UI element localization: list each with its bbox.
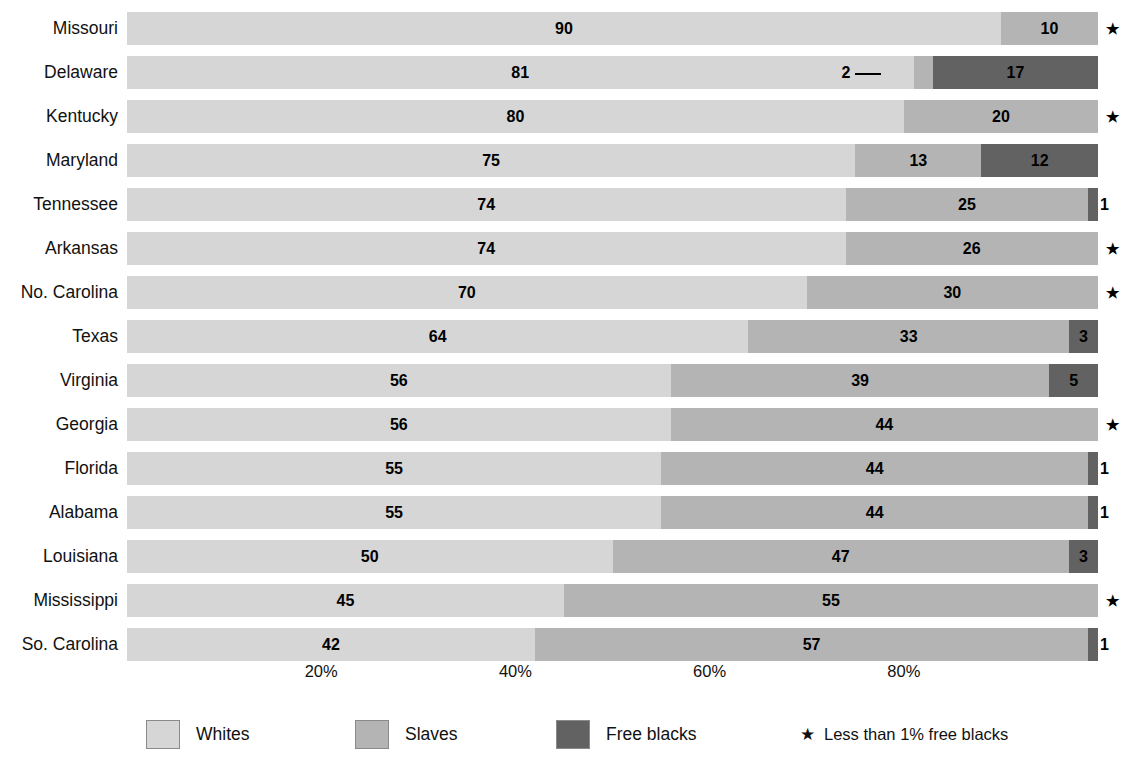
segment-value-whites: 55 xyxy=(127,452,661,485)
segment-whites: 50 xyxy=(127,540,613,573)
legend-swatch-free-blacks xyxy=(556,720,590,749)
row-label-mississippi: Mississippi xyxy=(33,584,118,617)
segment-free-blacks: 1 xyxy=(1088,188,1098,221)
stacked-bar: 55441 xyxy=(127,452,1098,485)
segment-slaves: 13 xyxy=(855,144,981,177)
stacked-bar: 7030 xyxy=(127,276,1098,309)
legend-footnote: ★Less than 1% free blacks xyxy=(800,716,1008,752)
segment-slaves: 10 xyxy=(1001,12,1098,45)
segment-value-whites: 55 xyxy=(127,496,661,529)
bar-row: Maryland751312 xyxy=(0,144,1134,177)
segment-value-slaves: 44 xyxy=(661,452,1088,485)
segment-whites: 42 xyxy=(127,628,535,661)
segment-value-whites: 81 xyxy=(127,56,914,89)
segment-value-free-blacks: 5 xyxy=(1049,364,1098,397)
x-axis: 20%40%60%80% xyxy=(0,662,1134,692)
row-label-kentucky: Kentucky xyxy=(46,100,118,133)
bar-row: Virginia56395 xyxy=(0,364,1134,397)
segment-value-slaves: 30 xyxy=(807,276,1098,309)
segment-value-slaves: 26 xyxy=(846,232,1098,265)
segment-value-slaves: 33 xyxy=(748,320,1068,353)
segment-whites: 75 xyxy=(127,144,855,177)
stacked-bar: 8020 xyxy=(127,100,1098,133)
x-tick-40pct: 40% xyxy=(499,662,532,681)
bar-row: Mississippi4555★ xyxy=(0,584,1134,617)
segment-value-slaves: 10 xyxy=(1001,12,1098,45)
segment-value-free-blacks: 1 xyxy=(1100,496,1114,529)
bar-row: So. Carolina42571 xyxy=(0,628,1134,661)
segment-slaves: 33 xyxy=(748,320,1068,353)
stacked-bar: 751312 xyxy=(127,144,1098,177)
x-tick-80pct: 80% xyxy=(887,662,920,681)
segment-value-free-blacks: 17 xyxy=(933,56,1098,89)
legend-label: Free blacks xyxy=(606,724,696,745)
segment-value-whites: 64 xyxy=(127,320,748,353)
segment-free-blacks: 17 xyxy=(933,56,1098,89)
segment-free-blacks: 3 xyxy=(1069,320,1098,353)
segment-whites: 74 xyxy=(127,188,846,221)
segment-value-whites: 80 xyxy=(127,100,904,133)
segment-value-whites: 70 xyxy=(127,276,807,309)
segment-value-slaves: 20 xyxy=(904,100,1098,133)
segment-slaves: 47 xyxy=(613,540,1069,573)
segment-whites: 64 xyxy=(127,320,748,353)
bar-row: Missouri9010★ xyxy=(0,12,1134,45)
less-than-one-percent-star-icon: ★ xyxy=(1106,100,1119,133)
bar-row: Texas64333 xyxy=(0,320,1134,353)
segment-value-whites: 42 xyxy=(127,628,535,661)
segment-slaves: 25 xyxy=(846,188,1089,221)
stacked-bar: 7426 xyxy=(127,232,1098,265)
segment-slaves: 30 xyxy=(807,276,1098,309)
chart-legend: WhitesSlavesFree blacks★Less than 1% fre… xyxy=(0,716,1134,756)
segment-free-blacks: 5 xyxy=(1049,364,1098,397)
segment-free-blacks: 1 xyxy=(1088,496,1098,529)
segment-whites: 55 xyxy=(127,496,661,529)
legend-item-free-blacks[interactable]: Free blacks xyxy=(556,716,696,752)
segment-free-blacks: 1 xyxy=(1088,628,1098,661)
segment-value-slaves: 39 xyxy=(671,364,1050,397)
less-than-one-percent-star-icon: ★ xyxy=(1106,408,1119,441)
callout-leader-line xyxy=(855,73,881,75)
bar-row: Louisiana50473 xyxy=(0,540,1134,573)
row-label-tennessee: Tennessee xyxy=(33,188,118,221)
legend-label: Whites xyxy=(196,724,249,745)
segment-value-whites: 90 xyxy=(127,12,1001,45)
bar-row: Kentucky8020★ xyxy=(0,100,1134,133)
row-label-arkansas: Arkansas xyxy=(45,232,118,265)
less-than-one-percent-star-icon: ★ xyxy=(1106,584,1119,617)
segment-value-whites: 75 xyxy=(127,144,855,177)
legend-swatch-whites xyxy=(146,720,180,749)
segment-value-slaves: 44 xyxy=(671,408,1098,441)
segment-value-free-blacks: 12 xyxy=(981,144,1098,177)
plot-area: Missouri9010★Delaware81217Kentucky8020★M… xyxy=(0,0,1134,668)
bar-row: Delaware81217 xyxy=(0,56,1134,89)
segment-free-blacks: 12 xyxy=(981,144,1098,177)
less-than-one-percent-star-icon: ★ xyxy=(1106,232,1119,265)
footnote-star-icon: ★ xyxy=(800,724,815,745)
stacked-bar: 81217 xyxy=(127,56,1098,89)
segment-value-whites: 74 xyxy=(127,232,846,265)
row-label-delaware: Delaware xyxy=(44,56,118,89)
row-label-no-carolina: No. Carolina xyxy=(21,276,118,309)
segment-free-blacks: 3 xyxy=(1069,540,1098,573)
row-label-missouri: Missouri xyxy=(53,12,118,45)
less-than-one-percent-star-icon: ★ xyxy=(1106,12,1119,45)
segment-value-slaves: 47 xyxy=(613,540,1069,573)
legend-item-whites[interactable]: Whites xyxy=(146,716,249,752)
row-label-virginia: Virginia xyxy=(60,364,118,397)
stacked-bar: 74251 xyxy=(127,188,1098,221)
segment-whites: 56 xyxy=(127,408,671,441)
less-than-one-percent-star-icon: ★ xyxy=(1106,276,1119,309)
legend-item-slaves[interactable]: Slaves xyxy=(355,716,458,752)
segment-value-free-blacks: 1 xyxy=(1100,628,1114,661)
segment-whites: 80 xyxy=(127,100,904,133)
stacked-bar: 5644 xyxy=(127,408,1098,441)
row-label-texas: Texas xyxy=(72,320,118,353)
segment-value-slaves: 44 xyxy=(661,496,1088,529)
row-label-georgia: Georgia xyxy=(56,408,118,441)
segment-value-slaves: 25 xyxy=(846,188,1089,221)
bar-row: Florida55441 xyxy=(0,452,1134,485)
bar-row: Arkansas7426★ xyxy=(0,232,1134,265)
segment-slaves: 44 xyxy=(671,408,1098,441)
stacked-bar: 42571 xyxy=(127,628,1098,661)
